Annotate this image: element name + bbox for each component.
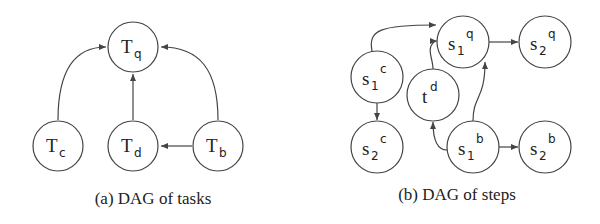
node-tq: T q [108,22,158,72]
node-superscript: c [380,132,387,146]
node-subscript: 1 [371,79,379,93]
edge-tc-tq [58,47,106,120]
node-label: T [46,135,58,156]
node-superscript: q [466,27,474,41]
node-label: s [530,33,537,54]
node-label: T [206,135,218,156]
node-label: s [458,138,465,159]
node-superscript: q [548,27,556,41]
node-superscript: d [430,80,438,94]
caption-b: (b) DAG of steps [398,185,516,204]
node-label: s [362,68,369,89]
node-subscript: 2 [539,44,547,58]
node-s2q: s 2 q [519,16,571,68]
node-superscript: b [476,132,484,146]
edge-s1b-td [433,122,447,150]
node-subscript: b [219,146,227,160]
node-subscript: c [59,146,66,160]
node-subscript: 2 [539,149,547,163]
node-subscript: 1 [457,44,465,58]
edge-s1b-s1q [473,62,485,121]
node-label: s [530,138,537,159]
node-label: s [448,33,455,54]
node-subscript: d [134,146,142,160]
node-s2b: s 2 b [519,121,571,173]
node-s1b: s 1 b [447,121,499,173]
node-subscript: q [134,47,142,61]
node-label: s [362,138,369,159]
node-superscript: c [380,62,387,76]
node-td-step: t d [407,69,459,121]
edge-tb-tq [161,47,218,120]
node-s1q: s 1 q [437,16,489,68]
node-label: T [121,135,133,156]
node-subscript: 1 [467,149,475,163]
node-label: t [422,86,428,107]
node-tc: T c [33,121,83,171]
node-td: T d [108,121,158,171]
node-tb: T b [193,121,243,171]
node-label: T [121,36,133,57]
node-s2c: s 2 c [351,121,403,173]
diagram-canvas: T q T c T d T b (a) DAG of tasks s 1 q s… [0,0,600,224]
node-subscript: 2 [371,149,379,163]
node-s1c: s 1 c [351,51,403,103]
edge-s1c-s1q [371,25,436,51]
node-superscript: b [548,132,556,146]
caption-a: (a) DAG of tasks [95,189,212,208]
edge-td-s1q [430,41,437,69]
